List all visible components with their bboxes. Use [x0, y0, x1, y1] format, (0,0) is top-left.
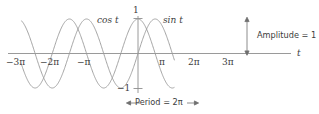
- x-tick-label-2pi: 2π: [188, 57, 200, 67]
- sin-curve-label: sin t: [163, 15, 183, 25]
- x-tick-label-neg-pi: −π: [77, 57, 90, 67]
- y-axis-top-label: 1: [133, 5, 139, 15]
- x-tick-label-neg-2pi: −2π: [40, 57, 59, 67]
- x-tick-label-3pi: 3π: [222, 57, 234, 67]
- cos-curve-label: cos t: [97, 15, 119, 25]
- y-axis-bottom-label: −1: [117, 83, 130, 93]
- trig-functions-figure: cos t sin t 1 −1 t Amplitude = 1 Period …: [0, 0, 319, 114]
- period-annotation-label: Period = 2π: [135, 97, 183, 107]
- amplitude-annotation-label: Amplitude = 1: [257, 30, 316, 40]
- x-tick-label-pi: π: [159, 57, 165, 67]
- x-tick-label-neg-3pi: −3π: [6, 57, 25, 67]
- t-axis-label: t: [297, 48, 301, 58]
